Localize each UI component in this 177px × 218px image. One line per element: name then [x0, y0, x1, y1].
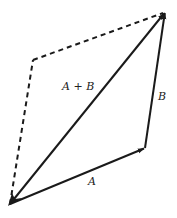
- dashed-edge-top: [33, 13, 163, 60]
- label-sum: A + B: [62, 81, 94, 92]
- label-a: A: [88, 176, 96, 187]
- vector-sum-arrow: [10, 14, 164, 205]
- label-b: B: [158, 91, 166, 102]
- dashed-edge-left: [10, 60, 33, 204]
- vector-a-arrow: [10, 149, 144, 205]
